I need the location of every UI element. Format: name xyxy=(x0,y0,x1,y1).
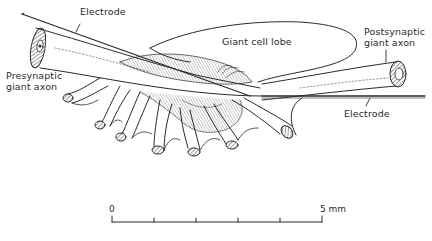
label-giant-cell-lobe: Giant cell lobe xyxy=(222,36,292,47)
label-electrode-bottom: Electrode xyxy=(344,108,390,119)
label-electrode-top: Electrode xyxy=(80,6,126,17)
stellate-nerve-3 xyxy=(116,92,150,141)
label-presynaptic-line1: Presynaptic xyxy=(6,70,62,81)
scale-bar-line xyxy=(112,216,322,222)
scale-end-label: 5 mm xyxy=(320,204,346,214)
label-presynaptic-line2: giant axon xyxy=(6,81,57,92)
scale-start-label: 0 xyxy=(109,204,115,214)
electrode-top-pointer xyxy=(76,24,80,32)
postsynaptic-axon xyxy=(262,61,406,100)
electrode-bottom-pointer xyxy=(366,98,370,106)
stellate-nerve-1 xyxy=(63,78,108,103)
label-postsynaptic-line1: Postsynaptic xyxy=(364,26,425,37)
label-postsynaptic-line2: giant axon xyxy=(364,37,415,48)
